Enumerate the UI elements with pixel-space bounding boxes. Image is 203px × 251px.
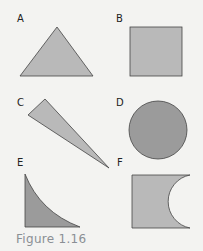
shape-e-curved-triangle — [25, 174, 80, 227]
shape-d-circle — [129, 101, 187, 159]
shapes-canvas — [0, 0, 203, 251]
label-b: B — [116, 13, 123, 24]
shape-c-thin-triangle — [28, 99, 109, 168]
label-a: A — [17, 13, 24, 24]
figure-caption: Figure 1.16 — [16, 232, 86, 246]
shape-f-square-cutout — [132, 175, 190, 228]
label-d: D — [116, 97, 124, 108]
label-e: E — [17, 157, 23, 168]
figure: A B C D E F Figure 1.16 — [0, 0, 203, 251]
label-f: F — [117, 157, 123, 168]
label-c: C — [17, 97, 24, 108]
shape-a-triangle — [20, 27, 93, 76]
shape-b-square — [130, 27, 182, 76]
